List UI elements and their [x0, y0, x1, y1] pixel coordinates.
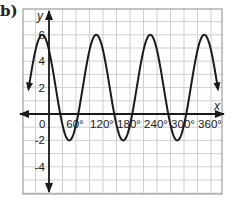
x-tick-label: 240° — [144, 118, 168, 130]
y-tick-label: 2 — [39, 82, 45, 94]
sine-graph: 060°120°180°240°300°360°642-2-4 x y — [0, 0, 232, 202]
y-tick-label: 4 — [39, 55, 46, 67]
grid-lines — [23, 9, 222, 194]
x-tick-label: 120° — [90, 118, 114, 130]
y-axis-up-arrow-icon — [45, 10, 53, 20]
graph-frame — [23, 9, 222, 194]
x-tick-label: 0 — [39, 118, 45, 130]
y-tick-label: -2 — [35, 134, 45, 146]
y-axis-label: y — [36, 9, 44, 23]
x-axis-label: x — [213, 99, 221, 113]
y-axis-down-arrow-icon — [45, 183, 53, 193]
curve-arrow-icon — [213, 82, 220, 91]
curve-arrow-icon — [26, 82, 33, 91]
x-tick-label: 360° — [198, 118, 222, 130]
y-tick-label: -4 — [35, 161, 46, 173]
axes — [19, 10, 225, 193]
x-axis-left-arrow-icon — [19, 110, 29, 118]
